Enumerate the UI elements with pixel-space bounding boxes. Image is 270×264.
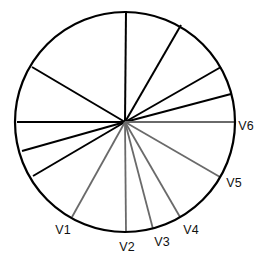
vector-line-v4 xyxy=(125,122,180,217)
label-v4: V4 xyxy=(183,223,198,237)
black-vector-line-3 xyxy=(125,94,231,122)
black-vector-line-0 xyxy=(125,11,126,122)
vector-line-v3 xyxy=(125,122,153,229)
label-v5: V5 xyxy=(226,176,241,190)
black-vector-line-2 xyxy=(125,67,221,122)
label-v1: V1 xyxy=(55,223,70,237)
label-v3: V3 xyxy=(154,235,169,249)
black-vector-line-7 xyxy=(32,67,125,122)
vector-line-v2 xyxy=(125,122,126,232)
unlabeled-vectors xyxy=(17,11,231,176)
lead-vector-diagram: V1V2V3V4V5V6 xyxy=(0,0,270,264)
label-v2: V2 xyxy=(119,240,134,254)
vector-line-v1 xyxy=(72,122,125,217)
black-vector-line-5 xyxy=(22,122,125,151)
black-vector-line-6 xyxy=(33,122,125,176)
black-vector-line-1 xyxy=(125,25,181,122)
label-v6: V6 xyxy=(238,119,253,133)
vector-line-v5 xyxy=(125,122,220,177)
